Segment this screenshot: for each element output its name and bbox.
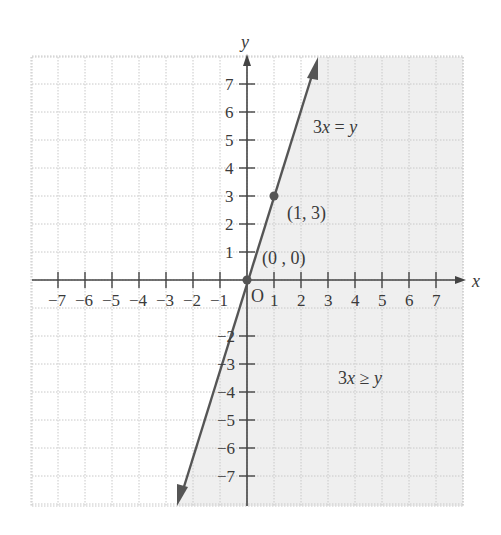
y-tick-label: −5	[217, 411, 235, 430]
y-tick-label: 5	[225, 131, 234, 150]
x-tick-label: 3	[324, 291, 333, 310]
y-tick-label: −7	[217, 467, 236, 486]
x-tick-label: 1	[270, 291, 279, 310]
equation-label: 3x = y	[313, 117, 357, 137]
point-1-3	[270, 192, 279, 201]
y-tick-label: 4	[225, 159, 234, 178]
x-tick-label: 6	[405, 291, 414, 310]
x-axis-label: x	[471, 271, 480, 291]
line-arrow-up-icon	[307, 57, 318, 80]
x-tick-label: −3	[156, 291, 174, 310]
point-origin-label: (0 , 0)	[262, 248, 306, 269]
x-tick-label: −7	[48, 291, 67, 310]
x-tick-label: 4	[351, 291, 360, 310]
y-tick-label: 6	[225, 103, 234, 122]
y-tick-label: 2	[225, 215, 234, 234]
x-tick-label: −6	[75, 291, 93, 310]
y-axis-arrow-icon	[243, 54, 251, 66]
y-tick-label: −4	[217, 383, 236, 402]
inequality-label: 3x ≥ y	[338, 368, 382, 388]
y-tick-label: 3	[225, 187, 234, 206]
x-tick-label: −5	[102, 291, 120, 310]
x-tick-label: 2	[297, 291, 306, 310]
y-tick-label: −3	[217, 355, 235, 374]
origin-label: O	[251, 286, 264, 306]
y-tick-label: −2	[217, 327, 235, 346]
x-tick-label: −2	[183, 291, 201, 310]
point-1-3-label: (1, 3)	[287, 203, 326, 224]
point-origin	[243, 276, 252, 285]
x-tick-label: 7	[432, 291, 441, 310]
y-axis-label: y	[239, 32, 249, 52]
y-tick-label: 7	[225, 75, 234, 94]
x-tick-label: −1	[210, 291, 228, 310]
y-tick-label: 1	[225, 243, 234, 262]
y-tick-label: −6	[217, 439, 235, 458]
x-tick-label: 5	[378, 291, 387, 310]
x-tick-label: −4	[129, 291, 148, 310]
inequality-graph: x y O (0 , 0) (1, 3) 3x = y 3x ≥ y −7−6−…	[0, 0, 501, 535]
